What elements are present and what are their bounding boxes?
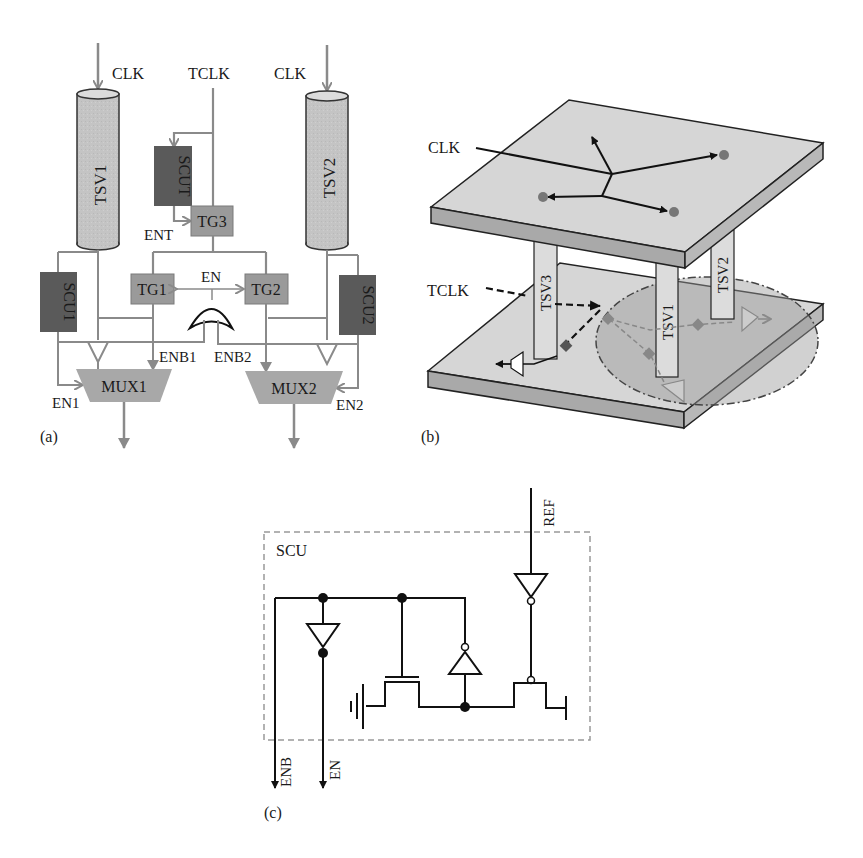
tsv2-label: TSV2 [320,158,339,199]
tsv1-b-label: TSV1 [660,304,676,340]
tclk-dashed-wire [486,288,528,296]
en2-label: EN2 [336,397,364,413]
enb-label: ENB [278,757,294,787]
tsv2-cylinder: TSV2 [306,91,348,250]
scu2-label: SCU2 [360,285,377,324]
tclk-to-scut-wire [174,133,213,146]
clk-right-label: CLK [274,65,306,82]
scu-boundary [264,532,590,740]
en1-label: EN1 [52,395,80,411]
tg2-label: TG2 [251,281,280,298]
panel-a-caption: (a) [40,428,58,446]
tg3-label: TG3 [197,213,226,230]
panel-c-caption: (c) [264,804,282,822]
nmos-transistor [366,682,465,707]
top-die-plate [431,100,823,268]
buffer-right-icon [317,344,337,364]
en-c-label: EN [327,760,343,780]
pmos-transistor [465,683,566,708]
inversion-bubble [462,644,469,651]
enable-gate-icon [190,309,232,328]
enb1-label: ENB1 [159,349,197,365]
scu1-label: SCU1 [61,282,78,321]
clock-sink-icon [719,150,729,160]
panel-b-caption: (b) [421,428,440,446]
ref-inverter-icon [515,574,547,597]
buffer-left-icon [88,342,108,362]
panel-b-3d-stack: TSV3 TSV1 TSV2 TCLK [421,100,823,446]
scu-label: SCU [276,542,308,559]
right-wiring [218,250,358,388]
ref-label: REF [541,499,557,527]
tsv3-label: TSV3 [538,275,554,311]
mux2-label: MUX2 [271,380,316,397]
clk-b-label: CLK [428,139,460,156]
tsv1-label: TSV1 [91,165,110,206]
feedback-inverter-icon [449,652,481,674]
tg1-label: TG1 [137,281,166,298]
ent-label: ENT [144,227,173,243]
enb2-label: ENB2 [214,349,252,365]
inversion-bubble [528,598,535,605]
figure-canvas: CLK TCLK CLK TSV1 TSV2 SCUT TG3 ENT [0,0,863,858]
tsv2-b-label: TSV2 [715,257,731,293]
en-label: EN [201,269,221,285]
clk-left-label: CLK [112,65,144,82]
panel-a-clock-tree-schematic: CLK TCLK CLK TSV1 TSV2 SCUT TG3 ENT [40,43,377,448]
scut-to-tg3-wire [174,206,190,221]
tclk-b-label: TCLK [427,282,469,299]
highlight-region [596,277,818,405]
tclk-label: TCLK [188,65,230,82]
feedback-rail [275,598,465,645]
scut-label: SCUT [176,156,193,197]
clock-sink-icon [538,192,548,202]
panel-c-scu-circuit: SCU REF ENB EN [264,488,590,822]
tsv1-cylinder: TSV1 [77,89,119,250]
clock-sink-icon [669,207,679,217]
mux1-label: MUX1 [101,378,146,395]
en-inverter-icon [307,624,339,647]
